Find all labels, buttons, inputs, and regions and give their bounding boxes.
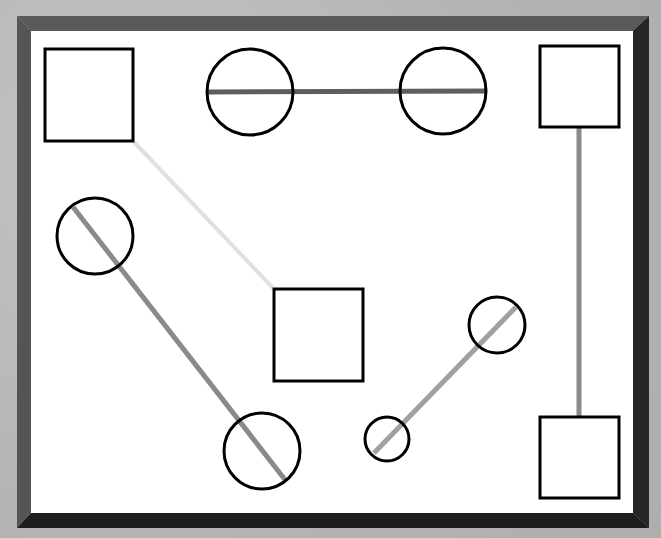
frame-left-bevel (17, 16, 31, 528)
frame-top-bevel (17, 16, 649, 31)
edge-circle-top-left-to-circle-top-right (208, 91, 487, 92)
frame-bottom-bevel (17, 513, 649, 528)
frame-right-bevel (633, 16, 649, 528)
diagram-canvas (0, 0, 661, 538)
